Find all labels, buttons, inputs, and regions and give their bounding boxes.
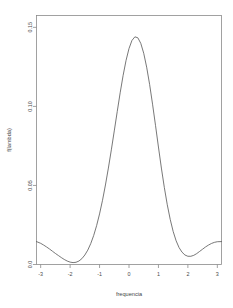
x-tick-label: 2 [186, 271, 189, 277]
x-tick-label: 0 [128, 271, 131, 277]
x-tick-label: 1 [157, 271, 160, 277]
x-axis-title: frequencia [116, 291, 143, 297]
y-axis-title: f(lambda) [6, 128, 12, 152]
x-tick-label: 3 [216, 271, 219, 277]
x-tick-label: -2 [68, 271, 73, 277]
chart-svg: -3-2-10123 0.00.050.100.15 frequencia f(… [0, 0, 233, 308]
y-tick-label: 0.05 [27, 180, 33, 191]
x-tick-label: -3 [38, 271, 43, 277]
chart-figure: -3-2-10123 0.00.050.100.15 frequencia f(… [0, 0, 233, 308]
x-tick-label: -1 [97, 271, 102, 277]
y-tick-label: 0.0 [27, 261, 33, 269]
y-tick-label: 0.15 [27, 22, 33, 33]
y-tick-label: 0.10 [27, 101, 33, 112]
figure-background [0, 0, 233, 308]
